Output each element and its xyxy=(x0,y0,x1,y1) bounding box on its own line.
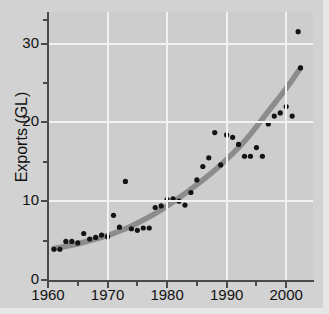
data-point xyxy=(69,239,74,244)
data-point xyxy=(99,232,104,237)
gridline-horizontal xyxy=(48,200,313,202)
x-tick-minor xyxy=(136,281,138,286)
data-point xyxy=(135,228,140,233)
chart-figure: 010203019601970198019902000 Exports (GL) xyxy=(0,0,329,314)
data-point xyxy=(254,145,259,150)
data-point xyxy=(200,164,205,169)
gridline-vertical xyxy=(107,12,109,280)
data-point xyxy=(75,240,80,245)
data-point xyxy=(182,203,187,208)
data-point xyxy=(111,213,116,218)
data-point xyxy=(206,155,211,160)
y-tick-minor xyxy=(43,82,48,84)
y-tick-label: 0 xyxy=(0,270,39,287)
data-point xyxy=(87,236,92,241)
data-point xyxy=(129,226,134,231)
data-point xyxy=(296,29,301,34)
data-point xyxy=(248,154,253,159)
gridline-vertical xyxy=(226,12,228,280)
data-point xyxy=(57,247,62,252)
gridline-horizontal xyxy=(48,43,313,45)
data-point xyxy=(278,110,283,115)
data-point xyxy=(272,113,277,118)
x-tick-minor xyxy=(77,281,79,286)
y-tick-minor xyxy=(43,19,48,21)
data-point xyxy=(242,154,247,159)
data-point xyxy=(236,142,241,147)
data-point xyxy=(141,225,146,230)
y-tick-major xyxy=(41,121,48,123)
y-tick-major xyxy=(41,200,48,202)
data-point xyxy=(159,203,164,208)
data-point xyxy=(153,205,158,210)
data-point xyxy=(194,177,199,182)
plot-panel xyxy=(48,12,313,280)
x-tick-label: 1970 xyxy=(91,286,124,303)
data-point xyxy=(93,235,98,240)
data-point xyxy=(117,225,122,230)
gridline-horizontal xyxy=(48,121,313,123)
y-tick-minor xyxy=(43,240,48,242)
data-point xyxy=(290,113,295,118)
gridline-vertical xyxy=(285,12,287,280)
data-point xyxy=(147,225,152,230)
x-tick-label: 1960 xyxy=(31,286,64,303)
data-point xyxy=(298,65,303,70)
data-point xyxy=(51,247,56,252)
x-tick-label: 1990 xyxy=(210,286,243,303)
data-point xyxy=(230,135,235,140)
x-tick-label: 1980 xyxy=(150,286,183,303)
data-point xyxy=(218,162,223,167)
x-tick-label: 2000 xyxy=(270,286,303,303)
data-point xyxy=(260,154,265,159)
plot-canvas xyxy=(48,12,313,280)
data-point xyxy=(81,231,86,236)
data-point xyxy=(63,239,68,244)
gridline-vertical xyxy=(166,12,168,280)
data-point xyxy=(123,179,128,184)
data-point xyxy=(188,190,193,195)
x-axis-line xyxy=(47,280,314,282)
data-point xyxy=(212,130,217,135)
x-tick-minor xyxy=(196,281,198,286)
y-axis-title: Exports (GL) xyxy=(13,37,31,237)
x-tick-minor xyxy=(255,281,257,286)
y-tick-major xyxy=(41,43,48,45)
y-tick-minor xyxy=(43,161,48,163)
